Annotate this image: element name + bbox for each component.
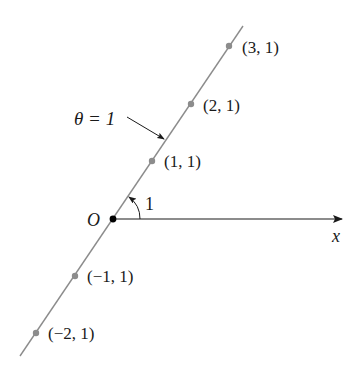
polar-line-diagram: (3, 1) (2, 1) (1, 1) (−1, 1) (−2, 1) θ =… [0,0,364,372]
point-2-1 [188,101,194,107]
point-label-neg2-1: (−2, 1) [48,324,94,343]
point-label-1-1: (1, 1) [164,152,201,171]
point-label-3-1: (3, 1) [242,38,279,57]
theta-line [20,26,243,356]
angle-arc [129,197,140,219]
theta-label: θ = 1 [74,108,115,129]
point-label-2-1: (2, 1) [203,96,240,115]
origin-label: O [87,210,100,230]
point-neg2-1 [33,330,39,336]
pointer-arrow [127,117,164,139]
point-neg1-1 [72,273,78,279]
point-3-1 [226,43,232,49]
point-label-neg1-1: (−1, 1) [87,267,133,286]
origin-point [110,216,117,223]
x-axis-label: x [331,226,340,246]
point-1-1 [149,158,155,164]
angle-label: 1 [145,194,154,214]
